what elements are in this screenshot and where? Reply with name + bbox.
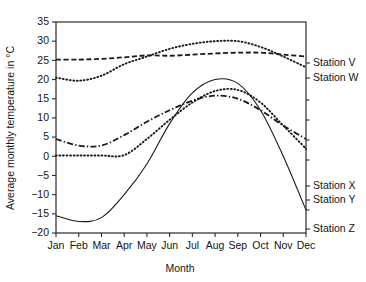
y-tick-label: 30	[37, 34, 49, 46]
y-tick-label: 35	[37, 15, 49, 27]
y-axis-title: Average monthly temperature in °C	[4, 46, 16, 210]
y-tick-label: −10	[31, 188, 49, 200]
series-line-station-v	[56, 41, 306, 81]
y-axis-ticks: 35302520151050−5−10−15−20	[31, 15, 56, 238]
x-tick-label: Feb	[70, 239, 88, 251]
x-tick-label: Mar	[92, 239, 111, 251]
y-tick-label: −5	[37, 169, 49, 181]
legend-label-station-y: Station Y	[313, 193, 355, 205]
plot-frame	[56, 22, 306, 233]
x-axis-title: Month	[165, 262, 194, 274]
series-labels: Station VStation WStation XStation YStat…	[306, 56, 359, 234]
chart-container: 35302520151050−5−10−15−20 JanFebMarAprMa…	[0, 0, 366, 282]
x-tick-label: Jul	[186, 239, 199, 251]
temperature-line-chart: 35302520151050−5−10−15−20 JanFebMarAprMa…	[0, 0, 366, 282]
y-tick-label: −15	[31, 207, 49, 219]
y-tick-label: 15	[37, 92, 49, 104]
series-line-station-x	[56, 96, 306, 147]
y-tick-label: 20	[37, 73, 49, 85]
y-tick-label: 10	[37, 111, 49, 123]
x-tick-label: Aug	[206, 239, 225, 251]
series-line-station-z	[56, 79, 306, 222]
y-tick-label: 5	[43, 130, 49, 142]
legend-label-station-x: Station X	[313, 179, 356, 191]
y-tick-label: −20	[31, 226, 49, 238]
x-axis-ticks: JanFebMarAprMayJunJulAugSepOctNovDec	[48, 233, 316, 251]
legend-label-station-v: Station V	[313, 56, 356, 68]
x-tick-label: Jan	[48, 239, 65, 251]
x-tick-label: Nov	[274, 239, 293, 251]
x-tick-label: May	[137, 239, 158, 251]
series-layer	[56, 41, 306, 222]
y-tick-label: 0	[43, 150, 49, 162]
y-tick-label: 25	[37, 54, 49, 66]
x-tick-label: Jun	[161, 239, 178, 251]
x-tick-label: Sep	[228, 239, 247, 251]
x-tick-label: Apr	[116, 239, 133, 251]
legend-label-station-z: Station Z	[313, 222, 356, 234]
x-tick-label: Dec	[297, 239, 316, 251]
series-line-station-w	[56, 53, 306, 60]
x-tick-label: Oct	[252, 239, 268, 251]
legend-label-station-w: Station W	[313, 71, 359, 83]
